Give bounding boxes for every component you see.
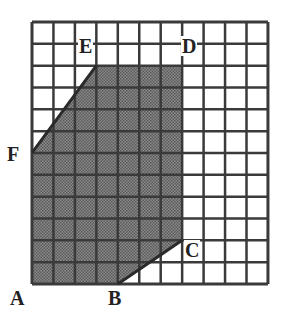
grid-diagram (0, 0, 286, 322)
vertex-label-a: A (10, 288, 24, 308)
vertex-label-f: F (7, 144, 19, 164)
vertex-label-d: D (181, 36, 197, 56)
vertex-label-c: C (184, 240, 200, 260)
vertex-label-e: E (78, 36, 93, 56)
vertex-label-b: B (108, 288, 121, 308)
